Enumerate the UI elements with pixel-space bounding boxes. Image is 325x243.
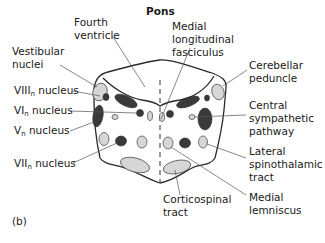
viii-nucleus-right — [205, 95, 210, 101]
label-medial-lemniscus: Medial lemniscus — [249, 191, 302, 216]
leader-lateral-spinothalamic — [207, 144, 246, 158]
medial-lemniscus-left — [137, 136, 147, 148]
leader-mlf — [161, 48, 190, 119]
vii-nucleus-left — [116, 136, 127, 146]
central-sympathetic-pathway — [198, 108, 212, 130]
corticospinal-tract-right — [162, 158, 192, 177]
mlf-left — [148, 112, 153, 121]
corticospinal-tract-left — [119, 154, 152, 175]
v-nucleus-left — [91, 104, 105, 127]
label-corticospinal-tract: Corticospinal tract — [163, 193, 235, 218]
pons-diagram: Pons Fourth ventricle Vestibular nuc — [0, 0, 325, 243]
label-central-sympathetic-pathway: Central sympathetic pathway — [249, 99, 317, 137]
mlf-tract-right — [175, 94, 201, 111]
leader-cerebellar-peduncle — [223, 70, 247, 86]
label-vii-nucleus: VIIn nucleus — [14, 157, 76, 171]
diagram-title: Pons — [146, 5, 175, 17]
leader-fourth-ventricle — [113, 37, 145, 87]
lateral-spinothalamic-right — [199, 136, 208, 148]
label-medial-longitudinal-fasciculus: Medial longitudinal fasciculus — [172, 20, 237, 58]
label-cerebellar-peduncle: Cerebellar peduncle — [249, 59, 306, 84]
vi-nucleus-right — [167, 111, 174, 118]
label-fourth-ventricle: Fourth ventricle — [74, 16, 120, 41]
panel-label: (b) — [12, 215, 27, 227]
label-viii-nucleus: VIIIn nucleus — [14, 84, 79, 98]
label-vi-nucleus: VIn nucleus — [14, 104, 73, 118]
leader-v-nucleus — [70, 122, 94, 131]
vi-nucleus-left — [137, 110, 144, 117]
central-sympathetic-right — [189, 115, 195, 120]
label-lateral-spinothalamic-tract: Lateral spinothalamic tract — [249, 145, 325, 183]
central-sympathetic-left — [112, 115, 118, 120]
label-v-nucleus: Vn nucleus — [14, 124, 70, 138]
lateral-spinothalamic-left — [99, 133, 109, 146]
vii-nucleus-right — [180, 138, 191, 148]
leader-vii-nucleus — [73, 143, 117, 163]
viii-nucleus-left — [103, 94, 109, 101]
label-vestibular-nuclei: Vestibular nuclei — [12, 45, 68, 70]
